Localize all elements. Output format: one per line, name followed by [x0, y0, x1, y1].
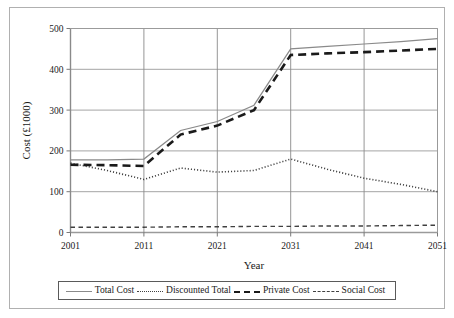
y-tick-label-500: 500	[49, 24, 64, 34]
series-line-total-cost	[71, 39, 438, 160]
legend-item-total-cost[interactable]: Total Cost	[66, 286, 137, 296]
legend-swatch-total-cost	[66, 287, 92, 295]
legend-item-discounted-total[interactable]: Discounted Total	[137, 286, 234, 296]
legend-swatch-private-cost	[234, 287, 260, 295]
x-axis-title: Year	[244, 259, 265, 271]
x-tick-label-2021: 2021	[208, 241, 227, 251]
line-chart-svg: 0100200300400500200120112021203120412051…	[0, 0, 454, 318]
x-tick-label-2041: 2041	[355, 241, 374, 251]
legend-item-social-cost[interactable]: Social Cost	[313, 286, 389, 296]
chart-legend: Total Cost Discounted Total Private Cost…	[58, 281, 396, 300]
x-tick-label-2011: 2011	[135, 241, 154, 251]
y-tick-label-200: 200	[49, 146, 64, 156]
y-tick-label-400: 400	[49, 65, 64, 75]
legend-label-total-cost: Total Cost	[92, 286, 137, 296]
y-axis-title: Cost (£1000)	[20, 101, 33, 159]
legend-label-social-cost: Social Cost	[339, 286, 389, 296]
chart-plot-area: 0100200300400500200120112021203120412051…	[0, 0, 454, 318]
legend-label-discounted-total: Discounted Total	[163, 286, 234, 296]
x-tick-label-2001: 2001	[61, 241, 80, 251]
legend-swatch-discounted-total	[137, 287, 163, 295]
y-tick-label-0: 0	[59, 228, 64, 238]
x-tick-label-2051: 2051	[428, 241, 447, 251]
x-tick-label-2031: 2031	[281, 241, 300, 251]
series-line-discounted-total	[71, 159, 438, 192]
series-line-social-cost	[71, 225, 438, 227]
legend-label-private-cost: Private Cost	[260, 286, 313, 296]
legend-swatch-social-cost	[313, 287, 339, 295]
y-tick-label-300: 300	[49, 106, 64, 116]
legend-item-private-cost[interactable]: Private Cost	[234, 286, 313, 296]
y-tick-label-100: 100	[49, 187, 64, 197]
series-line-private-cost	[71, 49, 438, 166]
